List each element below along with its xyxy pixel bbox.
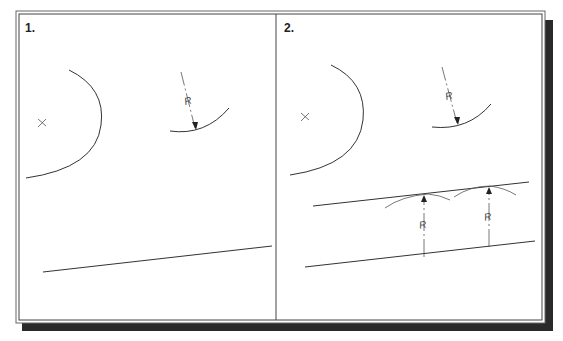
frame-shadow-bottom bbox=[22, 323, 552, 331]
frame-shadow-right bbox=[545, 20, 553, 331]
panel-2-label: 2. bbox=[284, 21, 294, 35]
outer-frame bbox=[16, 11, 545, 323]
drawing-canvas: 1. R 2. R bbox=[0, 0, 563, 341]
panel-1-label: 1. bbox=[25, 21, 35, 35]
